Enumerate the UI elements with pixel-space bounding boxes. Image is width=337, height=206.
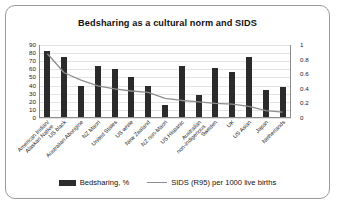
y-axis-right: 00.20.40.60.81 bbox=[294, 45, 320, 118]
axis-line-bottom bbox=[39, 117, 291, 118]
chart-frame: Bedsharing as a cultural norm and SIDS 0… bbox=[5, 5, 330, 199]
y-tick-left: 30 bbox=[29, 91, 36, 97]
legend-item-sids: SIDS (R95) per 1000 live births bbox=[147, 178, 276, 187]
y-tick-left: 60 bbox=[29, 66, 36, 72]
y-tick-right: 1 bbox=[300, 42, 303, 48]
legend-bar-swatch bbox=[59, 180, 76, 186]
y-tick-right: 0.8 bbox=[300, 57, 309, 63]
y-axis-left: 0102030405060708090 bbox=[13, 45, 36, 118]
legend-label-sids: SIDS (R95) per 1000 live births bbox=[171, 178, 276, 187]
y-tick-left: 10 bbox=[29, 107, 36, 113]
axis-line-left bbox=[39, 45, 40, 118]
y-tick-left: 0 bbox=[33, 115, 36, 121]
y-tick-right: 0.6 bbox=[300, 71, 309, 77]
x-tick-label: Sweden bbox=[200, 119, 219, 138]
x-tick-label: Japan bbox=[254, 119, 269, 134]
y-tick-left: 50 bbox=[29, 74, 36, 80]
legend-label-bedsharing: Bedsharing, % bbox=[80, 178, 129, 187]
legend-line-swatch bbox=[147, 182, 167, 183]
y-tick-right: 0.4 bbox=[300, 86, 309, 92]
y-tick-right: 0.2 bbox=[300, 100, 309, 106]
x-tick-label: UK bbox=[226, 119, 236, 129]
y-tick-right: 0 bbox=[300, 115, 303, 121]
plot-area bbox=[39, 45, 291, 118]
axis-line-right bbox=[290, 45, 291, 118]
y-tick-left: 90 bbox=[29, 42, 36, 48]
y-tick-left: 20 bbox=[29, 99, 36, 105]
x-axis-labels: American Indian/ Alaskan NativeUS blackA… bbox=[39, 119, 291, 171]
line-series bbox=[39, 45, 291, 118]
y-tick-left: 40 bbox=[29, 83, 36, 89]
legend-item-bedsharing: Bedsharing, % bbox=[59, 178, 129, 187]
y-tick-left: 70 bbox=[29, 58, 36, 64]
y-tick-left: 80 bbox=[29, 50, 36, 56]
chart-legend: Bedsharing, % SIDS (R95) per 1000 live b… bbox=[6, 178, 329, 187]
chart-title: Bedsharing as a cultural norm and SIDS bbox=[6, 18, 329, 28]
